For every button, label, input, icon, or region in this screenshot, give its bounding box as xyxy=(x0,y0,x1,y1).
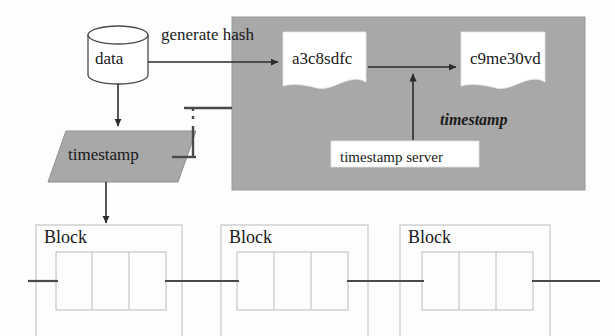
generate-hash-label: generate hash xyxy=(161,26,254,43)
hash-one-label: a3c8sdfc xyxy=(292,50,352,67)
diagram-canvas: data generate hash timestamp a3c8sdfc c9… xyxy=(0,0,615,336)
data-store-label: data xyxy=(95,50,123,67)
timestamp-server-label: timestamp server xyxy=(340,150,443,165)
timestamp-process-label: timestamp xyxy=(68,146,139,163)
block-3-label: Block xyxy=(408,228,451,246)
block-2-label: Block xyxy=(229,228,272,246)
block-1-label: Block xyxy=(44,228,87,246)
timestamp-edge-label: timestamp xyxy=(440,112,508,128)
hash-two-label: c9me30vd xyxy=(470,50,541,67)
